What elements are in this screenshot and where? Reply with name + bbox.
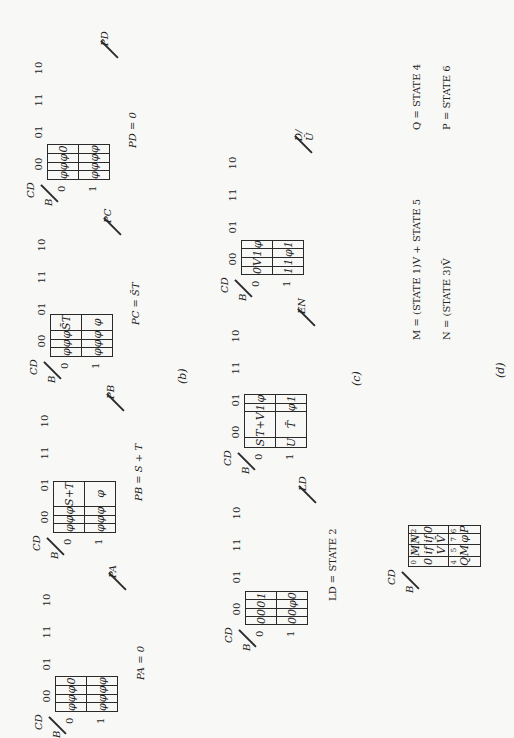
col-label: 00 — [39, 501, 50, 533]
kmap-cell: φ — [48, 153, 79, 162]
output-label: PA — [107, 565, 118, 578]
kmap-cell: φ — [87, 703, 118, 712]
col-label: 10 — [41, 584, 52, 616]
col-label: 00 — [36, 325, 47, 357]
kmap-grid: S T+V 1 φ U T̄ φ 1 — [244, 394, 307, 448]
kmap-cell: φ — [48, 171, 79, 180]
col-label: 00 — [227, 243, 238, 275]
kmap-cell: φ — [51, 330, 82, 339]
kmap-cell: φ — [79, 162, 110, 171]
row-label: 1 — [95, 718, 106, 724]
kmap-cell: 1 — [273, 267, 304, 275]
cell-value: P — [458, 526, 471, 533]
kmap-cell: N if V̄3 — [409, 534, 449, 545]
kmap-grid: 00 M if V1 N if V̄3 02 Q4 M5 φ7 P6 — [408, 525, 481, 567]
col-label: 01 — [39, 469, 50, 501]
col-label: 11 — [36, 261, 47, 293]
col-label: 10 — [231, 497, 242, 529]
kmap-cell: 0 — [246, 617, 277, 625]
row-label: 0 — [254, 631, 265, 637]
col-label: 01 — [230, 384, 241, 416]
corner-row-var: B — [240, 467, 251, 474]
kmap-cell: φ — [48, 162, 79, 171]
caption-b: (b) — [176, 368, 189, 384]
kmap-cell: T̄ — [276, 412, 307, 438]
col-label: 00 — [231, 593, 242, 625]
row-label: 1 — [281, 281, 292, 287]
kmap-grid: 0 0 0 1 0 0 φ 0 — [245, 591, 308, 625]
kmap-cell: 0 — [56, 677, 87, 686]
col-label: 11 — [231, 529, 242, 561]
cell-value: M — [458, 545, 471, 556]
kmap-cell: 0 — [277, 617, 308, 625]
kmap-cell: φ — [242, 240, 273, 249]
row-label: 0 — [253, 454, 264, 460]
kmap-cell: 1 — [246, 592, 277, 600]
map-equation: PA = 0 — [135, 646, 146, 680]
kmap-cell: φ — [245, 394, 276, 403]
map-equation: LD = STATE 2 — [327, 528, 338, 601]
col-label: 01 — [36, 293, 47, 325]
col-label: 01 — [231, 561, 242, 593]
col-label: 00 — [33, 148, 44, 180]
kmap-cell: φ — [56, 685, 87, 694]
kmap-cell: φ — [273, 249, 304, 258]
kmap-cell: T+V — [245, 412, 276, 438]
kmap-cell: P6 — [449, 525, 481, 533]
corner-col-var: CD — [33, 714, 44, 730]
kmap-cell: φ — [277, 600, 308, 609]
output-label: PD — [99, 31, 110, 46]
kmap-cell: 0 — [242, 267, 273, 275]
kmap-cell: φ — [79, 171, 110, 180]
col-label: 11 — [41, 616, 52, 648]
row-label: 1 — [87, 186, 98, 192]
equation-n: N = (STATE 3)V̄ — [441, 258, 452, 340]
kmap-cell: 1 — [276, 394, 307, 403]
kmap-cell: φ — [85, 481, 116, 506]
kmap-grid: φ φ φ S̄T φ φ φ φ — [50, 314, 113, 357]
row-label: 1 — [90, 363, 101, 369]
output-label: PC — [102, 209, 113, 223]
row-label: 1 — [93, 539, 104, 545]
kmap-cell: φ — [56, 694, 87, 703]
row-label: 0 — [56, 186, 67, 192]
corner-row-var: B — [404, 586, 415, 593]
kmap-cell: M if V1 — [409, 544, 449, 556]
corner-col-var: CD — [386, 569, 397, 585]
cell-index: 3 — [410, 537, 418, 541]
equation-m: M = (STATE 1)V + STATE 5 — [411, 199, 422, 340]
corner-col-var: CD — [31, 535, 42, 551]
col-label: 11 — [33, 84, 44, 116]
col-label: 01 — [33, 116, 44, 148]
cell-index: 2 — [410, 529, 418, 533]
kmap-cell: φ — [54, 515, 85, 524]
col-label: 10 — [36, 229, 47, 261]
kmap-cell: φ — [87, 677, 118, 686]
kmap-cell: φ — [87, 685, 118, 694]
equation-q: Q = STATE 4 — [411, 64, 422, 130]
col-label: 10 — [227, 147, 238, 179]
kmap-cell: φ — [79, 153, 110, 162]
kmap-cell: 0 — [48, 145, 79, 154]
map-equation: PB = S + T — [133, 444, 144, 501]
col-label: 11 — [230, 352, 241, 384]
map-equation: PC = S̄T — [130, 282, 141, 325]
kmap-grid: 0 V 1 φ 1 1 φ 1 — [241, 240, 304, 275]
kmap-cell: φ — [82, 315, 113, 331]
corner-row-var: B — [241, 644, 252, 651]
row-label: 0 — [59, 363, 70, 369]
kmap-grid: φ φ φ S+T φ φ φ φ — [53, 481, 116, 533]
cell-index: 5 — [450, 548, 458, 552]
kmap-cell: φ — [85, 524, 116, 533]
corner-col-var: CD — [25, 182, 36, 198]
equation-p: P = STATE 6 — [441, 65, 452, 130]
map-equation: PD = 0 — [127, 112, 138, 148]
cell-value: Q — [458, 557, 471, 566]
kmap-cell: 00 — [409, 556, 449, 566]
corner-col-var: CD — [219, 277, 230, 293]
corner-col-var: CD — [223, 627, 234, 643]
kmap-cell: 0 — [277, 592, 308, 600]
kmap-cell: φ — [85, 506, 116, 515]
output-label: PB — [105, 385, 116, 399]
